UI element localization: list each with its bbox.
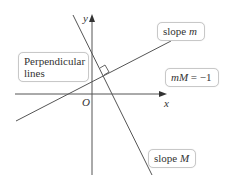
- perpendicular-text-line1: Perpendicular: [24, 55, 88, 67]
- y-axis-arrow-icon: [89, 14, 95, 22]
- slope-M-variable: M: [180, 152, 189, 164]
- x-axis-label: x: [164, 97, 169, 109]
- line-M: [73, 15, 152, 175]
- perpendicular-lines-callout: Perpendicular lines: [18, 52, 89, 82]
- slope-m-prefix: slope: [163, 25, 189, 37]
- origin-label: O: [82, 96, 90, 108]
- slope-m-callout: slope m: [157, 22, 205, 41]
- slope-M-prefix: slope: [154, 152, 180, 164]
- slope-m-variable: m: [189, 25, 197, 37]
- relation-lhs: mM: [171, 71, 188, 83]
- relation-rhs: = −1: [188, 71, 211, 83]
- perpendicular-text-line2: lines: [24, 67, 88, 79]
- slope-M-callout: slope M: [148, 149, 196, 168]
- y-axis-label: y: [83, 12, 88, 24]
- product-relation-callout: mM = −1: [165, 68, 219, 87]
